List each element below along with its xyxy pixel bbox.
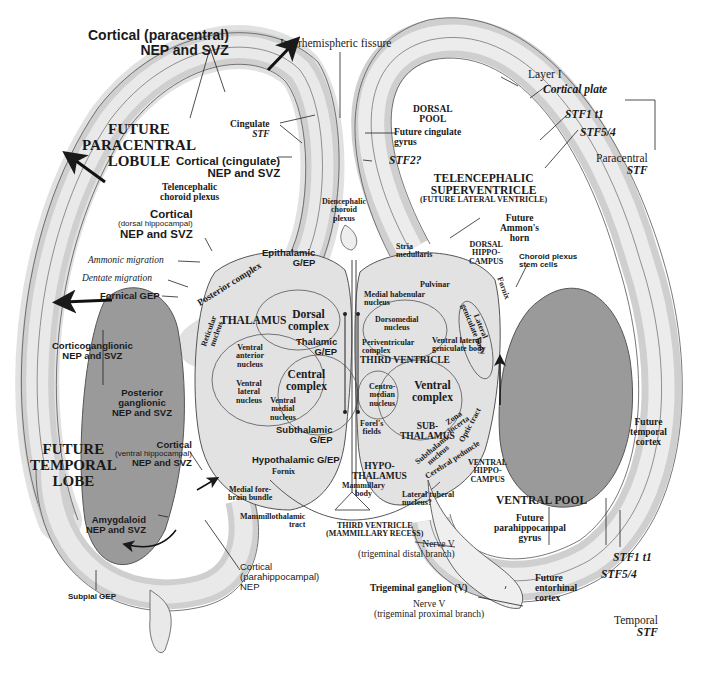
label-centromedian-nucleus: Centro- median nucleus — [369, 383, 396, 408]
region-thalamus: THALAMUS — [220, 314, 286, 326]
label-subthalamic-gep: Subthalamic G/EP — [276, 425, 333, 445]
label-stf1-t1-upper: STF1 t1 — [565, 108, 604, 120]
label-cortical-parahippocampal-nep: Cortical (parahippocampal) NEP — [240, 562, 319, 592]
label-hypothalamic-gep: Hypothalamic G/EP — [252, 455, 340, 465]
label-subpial-gep: Subpial GEP — [68, 593, 116, 601]
label-corticoganglionic-nep: Corticoganglionic NEP and SVZ — [52, 341, 133, 361]
label-stf1-t1-lower: STF1 t1 — [613, 551, 652, 563]
label-posterior-ganglionic-nep: Posterior ganglionic NEP and SVZ — [112, 388, 172, 418]
region-hypothalamus: HYPO- THALAMUS — [352, 462, 407, 482]
label-forels-fields: Forel's fields — [360, 420, 383, 437]
label-choroid-plexus-stem-cells: Choroid plexus stem cells — [519, 253, 577, 270]
label-medial-forebrain-bundle: Medial fore- brain bundle — [228, 486, 272, 503]
label-paracentral-stf: Paracentral STF — [596, 152, 648, 176]
ganglionic-eminence-right — [499, 288, 632, 507]
label-fornix-left: Fornix — [272, 468, 295, 476]
label-fornical-gep: Fornical GEP — [100, 291, 160, 301]
label-thalamic-gep: Thalamic G/EP — [296, 337, 337, 357]
label-cingulate-stf: Cingulate STF — [230, 120, 270, 140]
label-telencephalic-choroid-plexus: Telencephalic choroid plexus — [160, 183, 219, 203]
label-nerve-v-distal: Nerve V (trigeminal distal branch) — [358, 540, 455, 560]
label-temporal-stf: Temporal STF — [614, 614, 658, 638]
region-dorsal-hippocampus: DORSAL HIPPO- CAMPUS — [469, 241, 503, 266]
label-cortical-plate: Cortical plate — [543, 83, 607, 95]
region-dorsal-pool: DORSAL POOL — [413, 105, 453, 125]
label-central-complex: Central complex — [286, 368, 327, 392]
label-stf5-4-lower: STF5/4 — [601, 568, 637, 580]
label-dorsal-complex: Dorsal complex — [288, 308, 329, 332]
region-future-temporal-lobe: FUTURE TEMPORAL LOBE — [30, 442, 117, 489]
label-epithalamic-gep: Epithalamic G/EP — [262, 248, 315, 268]
label-future-parahippocampal-gyrus: Future parahippocampal gyrus — [494, 514, 566, 544]
label-future-cingulate-gyrus: Future cingulate gyrus — [394, 128, 461, 148]
label-stf2: STF2? — [389, 154, 422, 166]
label-dentate-migration: Dentate migration — [82, 274, 152, 284]
region-ventral-pool: VENTRAL POOL — [496, 494, 587, 506]
label-cortical-ventral-hippocampal-nep: Cortical (ventral hippocampal) NEP and S… — [115, 440, 192, 468]
label-ventral-medial-nucleus: Ventral medial nucleus — [270, 397, 296, 422]
label-interhemispheric-fissure: Interhemispheric fissure — [280, 37, 391, 49]
label-future-entorhinal-cortex: Future entorhinal cortex — [535, 574, 577, 604]
label-stria-medullaris: Stria medullaris — [396, 243, 432, 260]
label-cortical-paracentral-nep: Cortical (paracentral) NEP and SVZ — [88, 28, 229, 57]
region-third-ventricle: THIRD VENTRICLE — [360, 356, 450, 366]
label-cortical-cingulate-nep: Cortical (cingulate) NEP and SVZ — [176, 155, 280, 179]
label-ventral-anterior-nucleus: Ventral anterior nucleus — [236, 344, 264, 369]
label-cortical-dorsal-hippocampal-nep: Cortical (dorsal hippocampal) NEP and SV… — [118, 208, 193, 241]
label-ventral-lateral-nucleus: Ventral lateral nucleus — [236, 380, 262, 405]
label-ammonic-migration: Ammonic migration — [88, 256, 164, 266]
label-trigeminal-ganglion: Trigeminal ganglion (V) — [370, 584, 467, 594]
diagram-canvas: Cortical (paracentral) NEP and SVZ Inter… — [0, 0, 706, 674]
label-mammillary-body: Mammillary body — [342, 482, 385, 499]
label-periventricular-complex: Periventricular complex — [362, 339, 414, 356]
label-amygdaloid-nep: Amygdaloid NEP and SVZ — [86, 515, 146, 535]
label-ventral-complex: Ventral complex — [412, 379, 453, 403]
label-medial-habenular-nucleus: Medial habenular nucleus — [364, 291, 425, 308]
label-dorsomedial-nucleus: Dorsomedial nucleus — [375, 316, 419, 333]
label-stf5-4-upper: STF5/4 — [580, 126, 616, 138]
label-layer-i: Layer I — [528, 68, 562, 80]
region-third-ventricle-mammillary-recess: THIRD VENTRICLE (MAMMILLARY RECESS) — [326, 522, 423, 539]
label-future-temporal-cortex: Future temporal cortex — [630, 418, 667, 448]
label-mammillothalamic-tract: Mammillothalamic tract — [240, 513, 305, 530]
label-diencephalic-choroid-plexus: Diencephalic choroid plexus — [322, 198, 366, 223]
region-ventral-hippocampus: VENTRAL HIPPO- CAMPUS — [468, 459, 507, 484]
label-nerve-v-proximal: Nerve V (trigeminal proximal branch) — [374, 600, 484, 620]
region-telencephalic-superventricle: TELENCEPHALIC SUPERVENTRICLE (FUTURE LAT… — [420, 172, 547, 205]
label-pulvinar: Pulvinar — [420, 281, 450, 289]
label-future-ammons-horn: Future Ammon's horn — [500, 214, 539, 244]
label-lateral-tuberal-nucleus: Lateral tuberal nucleus? — [402, 491, 454, 508]
